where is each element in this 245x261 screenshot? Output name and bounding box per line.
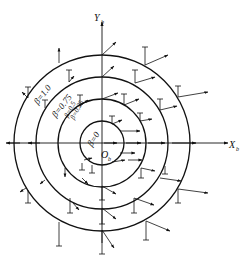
x-axis-subscript: b bbox=[236, 146, 239, 152]
labels: Y b X b O b β=1.0 β=0.75 β=0.5 β=0.25 β=… bbox=[31, 12, 239, 162]
origin-subscript: b bbox=[108, 156, 111, 162]
y-axis-label: Y bbox=[94, 12, 101, 23]
x-axis-label: X bbox=[228, 139, 236, 150]
label-beta-0: β=0 bbox=[85, 130, 102, 149]
vector-field-diagram: Y b X b O b β=1.0 β=0.75 β=0.5 β=0.25 β=… bbox=[0, 0, 245, 261]
y-axis-subscript: b bbox=[101, 19, 104, 25]
axes bbox=[8, 22, 228, 243]
